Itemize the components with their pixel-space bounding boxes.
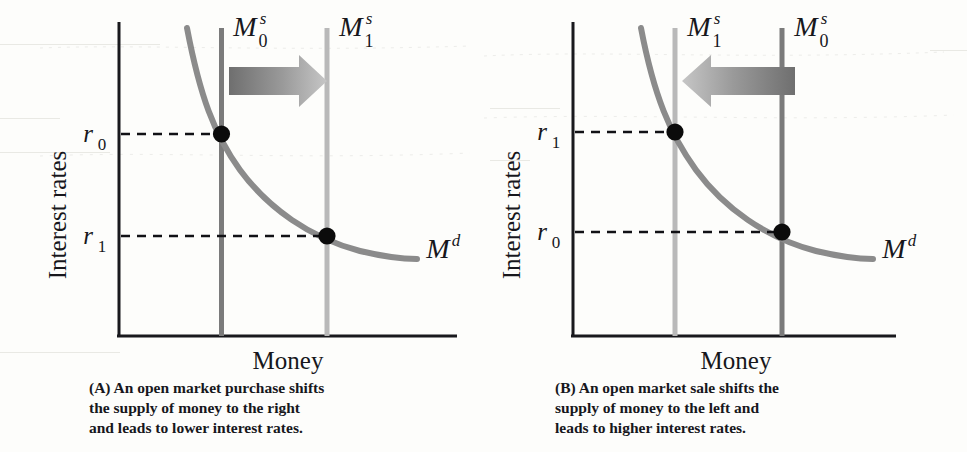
svg-text:d: d [452,231,461,250]
svg-text:r: r [537,118,547,145]
caption-line: the supply of money to the right [111,398,324,418]
shift-arrow-right-icon [229,55,327,107]
equilibrium-dot-new [318,227,335,244]
svg-text:M: M [425,233,451,264]
svg-text:s: s [260,9,267,28]
svg-text:0: 0 [820,31,829,51]
svg-text:M: M [232,11,258,42]
svg-text:r: r [537,218,547,245]
svg-text:1: 1 [552,133,561,152]
panel-a: Interest rates Money r 0 r 1 M s 0 M s 1 [0,0,483,452]
demand-label: M d [425,231,460,264]
x-axis-label: Money [701,347,772,374]
figure-root: Interest rates Money r 0 r 1 M s 0 M s 1 [0,0,967,452]
supply-label-new: M s 1 [686,9,721,51]
svg-text:M: M [881,233,907,264]
svg-text:0: 0 [552,233,561,252]
rate-label-lower: r 0 [537,218,560,252]
svg-text:s: s [714,9,721,28]
demand-label: M d [881,231,916,264]
equilibrium-dot-initial [773,223,790,240]
supply-label-new: M s 1 [338,9,373,51]
svg-text:s: s [366,9,373,28]
equilibrium-dot-initial [213,125,230,142]
svg-text:1: 1 [98,237,107,256]
y-axis-label: Interest rates [44,151,71,279]
svg-text:r: r [83,120,93,147]
supply-label-initial: M s 0 [793,9,828,51]
svg-text:0: 0 [259,31,268,51]
svg-text:M: M [793,11,819,42]
panel-b-caption: (B) An open market sale shifts the suppl… [484,378,967,438]
caption-line: supply of money to the left and [577,398,779,418]
svg-text:d: d [908,231,917,250]
svg-text:M: M [686,11,712,42]
svg-text:0: 0 [98,135,107,154]
y-axis-label: Interest rates [498,151,525,279]
caption-line: (B) An open market sale shifts the [577,378,779,398]
panel-b-chart: Interest rates Money r 1 r 0 M s 1 M s 0 [484,0,967,378]
caption-line: and leads to lower interest rates. [111,418,324,438]
svg-text:1: 1 [365,31,374,51]
shift-arrow-left-icon [682,55,795,107]
supply-label-initial: M s 0 [232,9,267,51]
rate-label-upper: r 0 [83,120,106,154]
svg-text:s: s [821,9,828,28]
svg-text:r: r [83,222,93,249]
equilibrium-dot-new [666,123,683,140]
panel-b: Interest rates Money r 1 r 0 M s 1 M s 0 [484,0,967,452]
rate-label-upper: r 1 [537,118,560,152]
caption-line: leads to higher interest rates. [577,418,779,438]
panel-a-chart: Interest rates Money r 0 r 1 M s 0 M s 1 [0,0,483,378]
caption-line: (A) An open market purchase shifts [111,378,324,398]
rate-label-lower: r 1 [83,222,106,256]
svg-text:1: 1 [713,31,722,51]
svg-text:M: M [338,11,364,42]
x-axis-label: Money [253,347,324,374]
